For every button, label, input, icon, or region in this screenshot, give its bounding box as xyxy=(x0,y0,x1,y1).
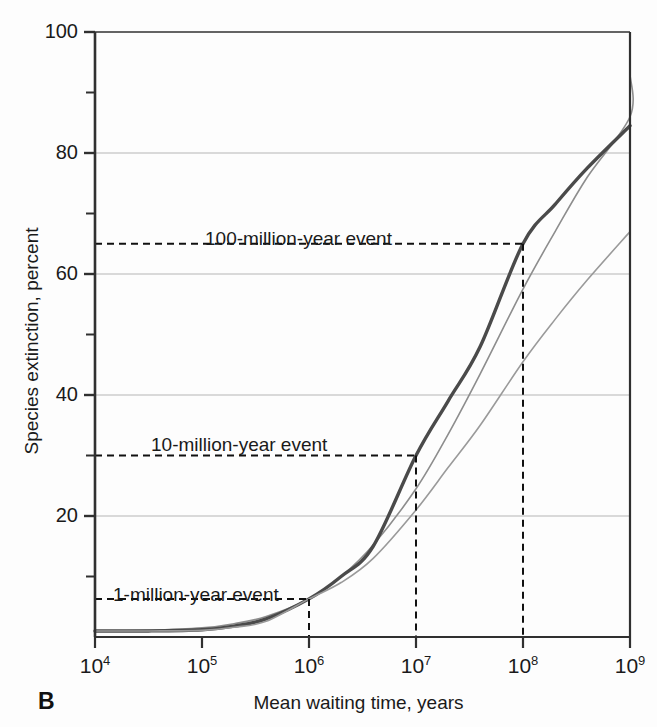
x-tick-exponent: 9 xyxy=(638,653,645,668)
annotation-label-event-100my: 100-million-year event xyxy=(205,228,392,250)
x-tick-mantissa: 10 xyxy=(401,654,424,677)
x-tick-label: 105 xyxy=(187,655,218,676)
x-tick-label: 109 xyxy=(615,655,646,676)
x-tick-exponent: 4 xyxy=(103,653,110,668)
x-tick-exponent: 5 xyxy=(210,653,217,668)
x-tick-mantissa: 10 xyxy=(294,654,317,677)
x-tick-exponent: 6 xyxy=(317,653,324,668)
annotation-label-event-10my: 10-million-year event xyxy=(151,434,327,456)
figure-panel-b: 10080604020 104105106107108109 100-milli… xyxy=(0,0,657,727)
axis-ticks-group xyxy=(84,32,630,648)
y-tick-label: 60 xyxy=(56,263,78,283)
x-axis-title: Mean waiting time, years xyxy=(0,692,657,714)
y-axis-title: Species extinction, percent xyxy=(21,191,43,491)
y-tick-label: 40 xyxy=(56,384,78,404)
series-group xyxy=(95,74,633,631)
axis-frame-group xyxy=(95,32,630,637)
chart-canvas xyxy=(0,0,657,727)
x-tick-mantissa: 10 xyxy=(615,654,638,677)
x-tick-mantissa: 10 xyxy=(508,654,531,677)
series-line xyxy=(95,126,630,631)
x-tick-label: 106 xyxy=(294,655,325,676)
gridlines-group xyxy=(95,153,630,516)
y-tick-label: 80 xyxy=(56,142,78,162)
y-tick-label: 20 xyxy=(56,505,78,525)
x-tick-mantissa: 10 xyxy=(187,654,210,677)
x-tick-exponent: 8 xyxy=(531,653,538,668)
series-line xyxy=(95,74,633,631)
annotation-label-event-1my: 1-million-year event xyxy=(113,584,279,606)
y-tick-label: 100 xyxy=(45,21,78,41)
x-tick-label: 104 xyxy=(80,655,111,676)
x-tick-mantissa: 10 xyxy=(80,654,103,677)
panel-letter: B xyxy=(38,688,55,715)
x-tick-label: 107 xyxy=(401,655,432,676)
series-line xyxy=(95,232,630,631)
x-tick-label: 108 xyxy=(508,655,539,676)
x-tick-exponent: 7 xyxy=(424,653,431,668)
